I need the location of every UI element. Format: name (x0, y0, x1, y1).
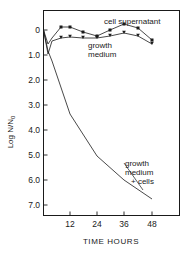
y-tick-label-5: 5.0 (28, 150, 40, 160)
y-tick-label-7: 7.0 (28, 200, 40, 210)
annotation-cell-supernatant: cell supernatant (104, 17, 161, 26)
y-tick-label-2: 2.0 (28, 75, 40, 85)
y-axis-ticks (44, 30, 48, 205)
line-chart: 0 1.0 2.0 3.0 4.0 5.0 6.0 7.0 12 24 36 4… (0, 0, 187, 260)
y-axis-title-main: Log N/N (6, 119, 15, 149)
annotation-growth-medium: growth medium (88, 41, 117, 59)
y-tick-label-3: 3.0 (28, 100, 40, 110)
x-tick-label-48: 48 (147, 219, 157, 229)
x-tick-label-24: 24 (92, 219, 102, 229)
y-tick-label-6: 6.0 (28, 175, 40, 185)
x-tick-label-36: 36 (119, 219, 129, 229)
annotation-growth-medium-line1: growth (88, 41, 112, 50)
y-tick-label-1: 1.0 (28, 50, 40, 60)
y-tick-label-4: 4.0 (28, 125, 40, 135)
y-axis-title-sub: 0 (10, 115, 16, 119)
chart-figure: 0 1.0 2.0 3.0 4.0 5.0 6.0 7.0 12 24 36 4… (0, 0, 187, 260)
y-axis-title: Log N/N0 (6, 115, 16, 148)
y-tick-label-0: 0 (35, 25, 40, 35)
annotation-growth-medium-line2: medium (88, 50, 117, 59)
annotation-growth-medium-plus-cells: growth medium + cells (124, 159, 154, 190)
svg-text:Log N/N0: Log N/N0 (6, 115, 16, 148)
annotation-gm-cells-line2: medium (125, 168, 154, 177)
x-axis-title: TIME HOURS (83, 237, 139, 246)
x-tick-label-12: 12 (65, 219, 75, 229)
x-axis-ticks (70, 212, 152, 216)
annotation-gm-cells-line1: growth (125, 159, 149, 168)
